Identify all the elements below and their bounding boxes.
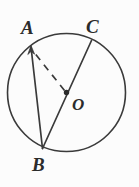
point-label-a: A [21,18,34,37]
center-point-dot [64,90,69,95]
point-label-c: C [86,17,99,36]
point-label-o: O [72,96,84,113]
segment-ab [31,47,43,149]
geometry-figure: A C O B [0,0,139,187]
segment-oa-dashed-radius [33,51,65,91]
point-label-b: B [32,155,45,174]
